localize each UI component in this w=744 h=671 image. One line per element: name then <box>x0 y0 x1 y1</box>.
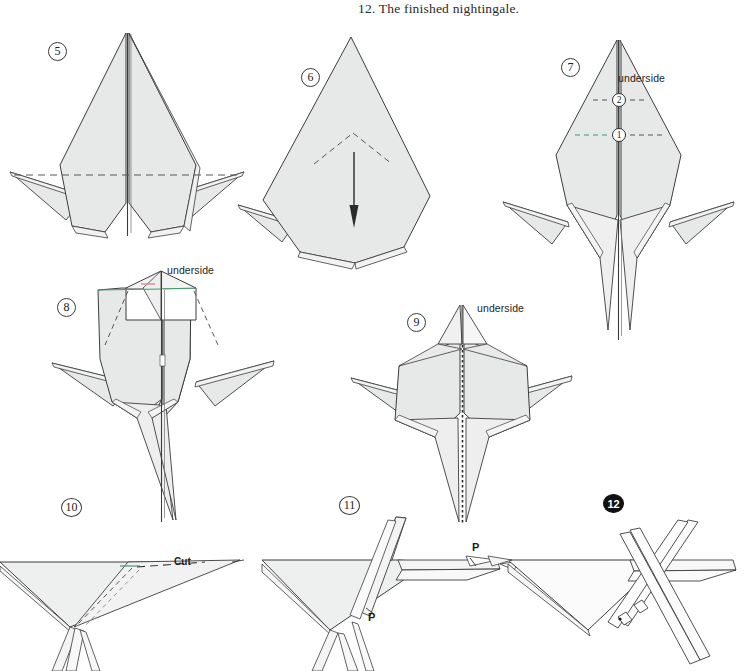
diagram-sheet: 12. The finished nightingale. 5 <box>0 0 744 671</box>
step-marker-12: 12 <box>603 494 624 513</box>
step12-body <box>488 520 736 664</box>
figure-step-12 <box>0 0 744 671</box>
